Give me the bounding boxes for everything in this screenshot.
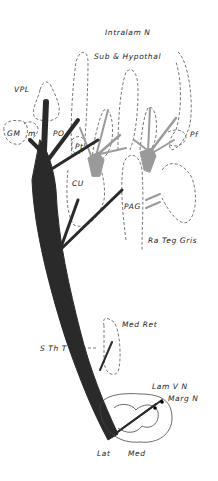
label-lat: Lat xyxy=(97,450,111,458)
label-pag: PAG xyxy=(124,203,141,211)
label-marg: Marg N xyxy=(168,395,199,403)
intralam-loop-right xyxy=(169,52,191,150)
label-m: m xyxy=(28,130,36,138)
label-pf: Pf xyxy=(190,131,198,139)
label-subhyp: Sub & Hypothal xyxy=(94,53,161,61)
label-ratg: Ra Teg Gris xyxy=(148,237,197,245)
label-pt: Pt xyxy=(75,143,84,151)
label-cu: CU xyxy=(72,180,84,188)
med-ret-outline xyxy=(104,318,120,374)
label-medret: Med Ret xyxy=(122,321,157,329)
label-med: Med xyxy=(128,450,146,458)
label-vpl: VPL xyxy=(14,86,30,94)
label-stht: S Th T xyxy=(40,345,67,353)
label-gm: GM xyxy=(7,130,20,138)
label-intralam: Intralam N xyxy=(105,29,151,37)
label-po: PO xyxy=(53,130,65,138)
label-lam5: Lam V N xyxy=(152,383,188,391)
ratg-outline xyxy=(162,164,195,223)
sub-loop-2 xyxy=(118,70,138,150)
